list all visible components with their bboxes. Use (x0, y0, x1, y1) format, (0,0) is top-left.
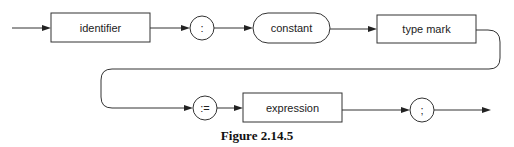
identifier-label: identifier (80, 22, 122, 34)
exit-arrow (434, 107, 491, 113)
syntax-diagram: identifier : constant type mark := (0, 0, 514, 147)
colon-node: : (190, 16, 214, 40)
figure-caption: Figure 2.14.5 (221, 128, 294, 143)
expression-node: expression (243, 93, 342, 122)
edge-colon-constant (214, 25, 253, 31)
assign-label: := (200, 102, 209, 114)
colon-label: : (200, 22, 203, 34)
entry-arrow (12, 25, 51, 31)
constant-node: constant (253, 13, 330, 43)
edge-constant-typemark (330, 26, 377, 32)
edge-identifier-colon (150, 25, 190, 31)
constant-label: constant (271, 22, 313, 34)
type-mark-label: type mark (402, 23, 451, 35)
type-mark-node: type mark (377, 15, 476, 43)
edge-assign-expression (217, 105, 243, 111)
identifier-node: identifier (51, 13, 150, 42)
expression-label: expression (266, 102, 319, 114)
semicolon-label: ; (420, 104, 423, 116)
edge-expression-semicolon (342, 107, 410, 113)
assign-node: := (193, 96, 217, 120)
semicolon-node: ; (410, 98, 434, 122)
